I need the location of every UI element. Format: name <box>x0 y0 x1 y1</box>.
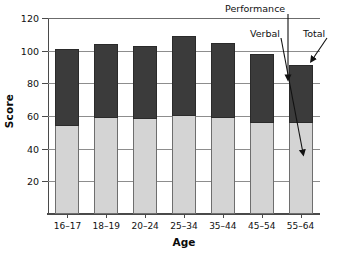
bar-segment-verbal <box>211 118 235 214</box>
bar-segment-verbal <box>133 119 157 214</box>
annotation-performance: Performance <box>225 3 285 14</box>
annotation-verbal: Verbal <box>250 28 280 39</box>
x-tick-0 <box>67 214 68 218</box>
bar-segment-performance <box>211 43 235 118</box>
bar-16-17 <box>55 49 79 214</box>
bar-segment-performance <box>55 49 79 126</box>
x-tick-1 <box>106 214 107 218</box>
bar-segment-performance <box>250 54 274 123</box>
y-tick-120 <box>42 18 48 19</box>
bar-20-24 <box>133 46 157 214</box>
y-tick-60 <box>42 116 48 117</box>
x-tick-label-2: 20–24 <box>131 221 158 231</box>
x-tick-2 <box>145 214 146 218</box>
bar-segment-performance <box>172 36 196 116</box>
stacked-bar-chart: Score 20406080100120 16–1718–1920–2425–3… <box>0 0 352 258</box>
x-tick-label-4: 35–44 <box>209 221 236 231</box>
bar-segment-verbal <box>289 123 313 214</box>
bar-segment-performance <box>289 65 313 122</box>
y-tick-label-40: 40 <box>27 143 39 154</box>
bar-55-64 <box>289 65 313 214</box>
bar-segment-performance <box>94 44 118 118</box>
bar-45-54 <box>250 54 274 214</box>
x-tick-label-1: 18–19 <box>93 221 120 231</box>
x-tick-4 <box>223 214 224 218</box>
x-tick-5 <box>262 214 263 218</box>
x-tick-6 <box>301 214 302 218</box>
bar-segment-performance <box>133 46 157 120</box>
y-tick-label-120: 120 <box>21 13 39 24</box>
x-axis-title: Age <box>48 236 320 248</box>
bar-segment-verbal <box>94 118 118 214</box>
bar-segment-verbal <box>55 126 79 214</box>
y-tick-label-60: 60 <box>27 111 39 122</box>
x-tick-label-5: 45–54 <box>248 221 275 231</box>
bar-18-19 <box>94 44 118 214</box>
y-axis-title: Score <box>3 81 15 141</box>
x-tick-label-0: 16–17 <box>54 221 81 231</box>
annotation-total: Total <box>303 28 325 39</box>
bar-segment-verbal <box>172 116 196 214</box>
y-tick-80 <box>42 83 48 84</box>
x-tick-label-3: 25–34 <box>170 221 197 231</box>
y-tick-label-80: 80 <box>27 78 39 89</box>
y-tick-20 <box>42 181 48 182</box>
y-tick-label-100: 100 <box>21 45 39 56</box>
bar-segment-verbal <box>250 123 274 214</box>
x-tick-3 <box>184 214 185 218</box>
y-tick-label-20: 20 <box>27 176 39 187</box>
bar-35-44 <box>211 43 235 215</box>
x-tick-label-6: 55–64 <box>287 221 314 231</box>
bar-25-34 <box>172 36 196 214</box>
y-tick-40 <box>42 149 48 150</box>
gridline-120 <box>48 18 320 19</box>
y-tick-100 <box>42 51 48 52</box>
plot-area: 20406080100120 16–1718–1920–2425–3435–44… <box>48 18 320 214</box>
